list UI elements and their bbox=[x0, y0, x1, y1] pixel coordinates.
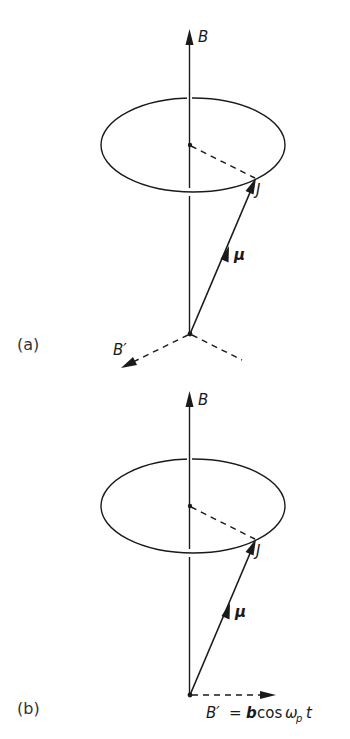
b-field-axis bbox=[186, 29, 194, 334]
label-b-prime: B′ bbox=[113, 341, 127, 359]
b-field-axis bbox=[186, 391, 194, 695]
radius-dashed-line bbox=[191, 146, 255, 178]
panel-a: B J μ B′ (a) bbox=[17, 28, 285, 368]
radius-dashed-line bbox=[191, 507, 255, 539]
eq-cos: cos bbox=[257, 704, 282, 722]
panel-label-a: (a) bbox=[17, 335, 39, 354]
label-b-field: B bbox=[198, 28, 208, 46]
precession-cone-ellipse bbox=[101, 98, 285, 192]
b-prime-dashed-arrow bbox=[131, 335, 188, 363]
b-prime-equation: B′ = b cos ω p t bbox=[206, 704, 313, 724]
eq-b-prime: B′ bbox=[206, 704, 220, 722]
panel-label-b: (b) bbox=[17, 699, 40, 718]
label-b-field: B bbox=[198, 391, 208, 409]
panel-b: B J μ B′ = b cos ω p t (b) bbox=[17, 391, 313, 724]
b-field-arrowhead-icon bbox=[186, 29, 194, 45]
origin-dot bbox=[188, 693, 193, 698]
j-arrowhead-icon bbox=[246, 178, 257, 195]
eq-equals: = bbox=[229, 704, 242, 722]
eq-time-t: t bbox=[306, 704, 313, 722]
j-arrowhead-icon bbox=[246, 539, 257, 556]
perpendicular-dashed-line bbox=[192, 335, 242, 360]
origin-dot bbox=[188, 332, 193, 337]
b-prime-arrowhead-icon bbox=[260, 691, 276, 699]
b-field-arrowhead-icon bbox=[186, 391, 194, 407]
eq-amplitude-b: b bbox=[246, 704, 257, 722]
precession-cone-ellipse bbox=[101, 459, 285, 553]
label-mu: μ bbox=[234, 603, 246, 621]
eq-subscript-p: p bbox=[295, 713, 302, 724]
label-mu: μ bbox=[233, 246, 245, 264]
precession-diagram: B J μ B′ (a) B J μ B′ = b bbox=[0, 0, 350, 739]
